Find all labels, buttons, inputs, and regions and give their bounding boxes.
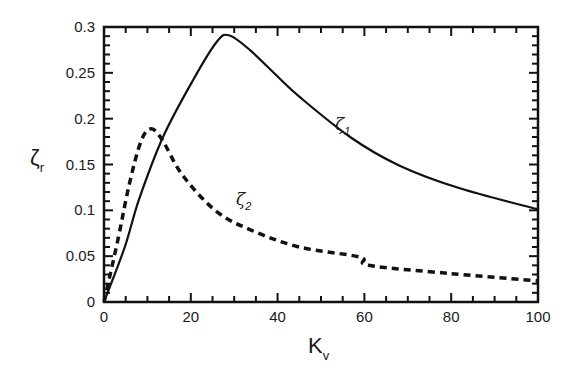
y-tick-label: 0.2: [74, 110, 95, 127]
series-zeta2-line: [104, 129, 538, 302]
y-tick-label: 0.05: [66, 247, 95, 264]
plot-frame: [104, 27, 538, 302]
series-zeta1-line: [104, 35, 538, 302]
line-chart: 02040608010000.050.10.150.20.250.3 ζr Kv…: [0, 0, 579, 383]
y-axis-title-subscript: r: [40, 160, 45, 175]
x-axis-title-symbol: K: [308, 333, 323, 358]
y-axis-title: ζr: [30, 145, 45, 175]
series-label-zeta2-subscript: 2: [244, 200, 251, 212]
x-tick-label: 0: [100, 308, 108, 325]
x-axis-title: Kv: [308, 333, 330, 363]
axis-ticks: [104, 27, 538, 302]
x-tick-label: 80: [443, 308, 460, 325]
x-axis-title-subscript: v: [323, 348, 330, 363]
x-tick-label: 60: [356, 308, 373, 325]
x-tick-label: 100: [525, 308, 550, 325]
y-tick-label: 0.1: [74, 201, 95, 218]
y-axis-title-symbol: ζ: [30, 145, 40, 170]
x-tick-label: 40: [269, 308, 286, 325]
series-label-zeta2: ζ2: [236, 189, 251, 212]
x-tick-label: 20: [182, 308, 199, 325]
y-tick-label: 0.15: [66, 156, 95, 173]
y-tick-label: 0.25: [66, 64, 95, 81]
tick-labels: 02040608010000.050.10.150.20.250.3: [66, 18, 551, 325]
y-tick-label: 0: [87, 293, 95, 310]
series-label-zeta1: ζ1: [335, 114, 350, 137]
series-label-zeta1-subscript: 1: [344, 125, 350, 137]
curves: [104, 35, 538, 302]
y-tick-label: 0.3: [74, 18, 95, 35]
